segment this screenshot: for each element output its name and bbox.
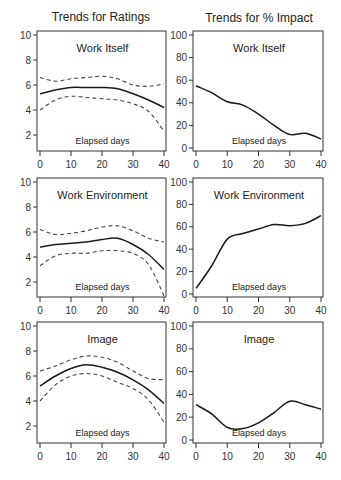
x-tick-label: 10 [65,159,77,170]
panel-impact-image: 020406080100010203040ImageElapsed days [170,321,327,463]
y-tick-label: 100 [170,177,187,188]
x-tick-label: 30 [284,305,296,316]
column-title-ratings: Trends for Ratings [52,10,150,24]
series-upper-ci [40,76,164,86]
y-tick-label: 2 [25,277,31,288]
series-lower-ci [40,96,164,131]
x-tick-label: 40 [315,451,327,462]
x-axis-label: Elapsed days [75,428,130,438]
series-impact [196,401,321,429]
x-axis-label: Elapsed days [232,136,287,146]
y-tick-label: 80 [176,52,188,63]
panel-title: Work Environment [57,189,147,201]
x-tick-label: 40 [158,451,170,462]
panel-title: Work Itself [77,42,130,54]
y-tick-label: 100 [170,321,187,332]
y-tick-label: 4 [25,396,31,407]
y-tick-label: 10 [20,321,32,332]
x-tick-label: 10 [65,305,77,316]
x-tick-label: 0 [37,451,43,462]
x-axis-label: Elapsed days [232,282,287,292]
series-impact [196,216,321,289]
x-tick-label: 40 [158,305,170,316]
panel-ratings-work-itself: 246810010203040Work ItselfElapsed days [20,30,170,171]
x-tick-label: 10 [222,305,234,316]
panel-title: Image [244,333,275,345]
series-estimate [40,238,164,269]
y-tick-label: 6 [25,227,31,238]
x-tick-label: 10 [65,451,77,462]
column-title-impact: Trends for % Impact [205,11,313,25]
x-tick-label: 40 [315,159,327,170]
x-tick-label: 40 [315,305,327,316]
series-estimate [40,87,164,107]
x-tick-label: 30 [284,159,296,170]
y-tick-label: 10 [20,30,32,41]
y-tick-label: 20 [176,412,188,423]
x-tick-label: 10 [222,451,234,462]
y-tick-label: 10 [20,177,32,188]
x-tick-label: 20 [96,159,108,170]
y-tick-label: 20 [176,266,188,277]
y-tick-label: 6 [25,371,31,382]
y-tick-label: 40 [176,244,188,255]
x-tick-label: 0 [193,159,199,170]
x-tick-label: 0 [37,305,43,316]
y-tick-label: 40 [176,389,188,400]
panel-title: Work Itself [233,42,286,54]
series-lower-ci [40,374,164,423]
x-tick-label: 30 [127,159,139,170]
y-tick-label: 4 [25,252,31,263]
x-tick-label: 30 [127,305,139,316]
y-tick-label: 2 [25,130,31,141]
panels: 246810010203040Work ItselfElapsed days02… [20,30,327,463]
x-tick-label: 20 [96,305,108,316]
y-tick-label: 60 [176,366,188,377]
x-tick-label: 0 [193,305,199,316]
x-tick-label: 0 [193,451,199,462]
y-tick-label: 60 [176,75,188,86]
series-impact [196,86,321,139]
y-tick-label: 0 [181,289,187,300]
y-tick-label: 8 [25,202,31,213]
y-tick-label: 4 [25,105,31,116]
y-tick-label: 100 [170,30,187,41]
x-axis-label: Elapsed days [75,136,130,146]
y-tick-label: 0 [181,435,187,446]
y-tick-label: 8 [25,346,31,357]
x-tick-label: 40 [158,159,170,170]
x-tick-label: 10 [222,159,234,170]
x-tick-label: 20 [96,451,108,462]
x-tick-label: 30 [284,451,296,462]
y-tick-label: 40 [176,97,188,108]
series-estimate [40,365,164,404]
figure: Trends for Ratings Trends for % Impact 2… [0,0,341,480]
x-tick-label: 20 [253,451,265,462]
panel-impact-work-itself: 020406080100010203040Work ItselfElapsed … [170,30,327,171]
panel-ratings-work-environment: 246810010203040Work EnvironmentElapsed d… [20,177,170,317]
y-tick-label: 80 [176,343,188,354]
x-tick-label: 20 [253,305,265,316]
y-tick-label: 80 [176,199,188,210]
x-tick-label: 30 [127,451,139,462]
x-tick-label: 20 [253,159,265,170]
y-tick-label: 20 [176,120,188,131]
panel-title: Image [87,333,118,345]
panel-title: Work Environment [214,189,304,201]
panel-impact-work-environment: 020406080100010203040Work EnvironmentEla… [170,177,327,317]
x-axis-label: Elapsed days [75,282,130,292]
y-tick-label: 6 [25,80,31,91]
y-tick-label: 0 [181,143,187,154]
y-tick-label: 60 [176,221,188,232]
x-tick-label: 0 [37,159,43,170]
y-tick-label: 8 [25,55,31,66]
panel-ratings-image: 246810010203040ImageElapsed days [20,321,170,463]
y-tick-label: 2 [25,421,31,432]
